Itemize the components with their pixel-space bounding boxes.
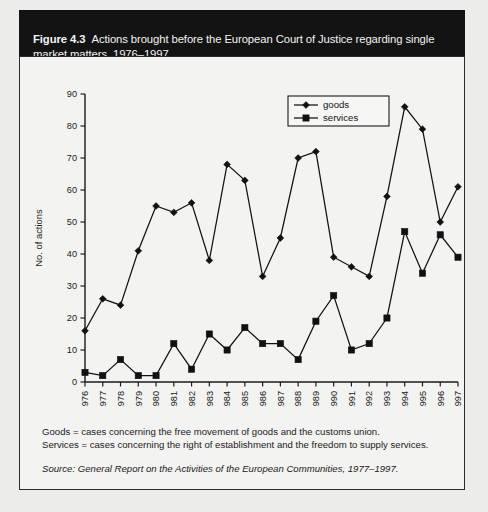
data-point-services (100, 373, 106, 379)
x-tick-label: 1976 (80, 391, 90, 407)
x-tick-label: 1992 (364, 391, 374, 407)
data-point-services (348, 347, 354, 353)
legend-label-services: services (323, 112, 358, 123)
data-point-services (455, 254, 461, 260)
data-point-services (384, 315, 390, 321)
x-tick-label: 1982 (187, 391, 197, 407)
data-point-goods (170, 209, 177, 216)
legend-label-goods: goods (323, 99, 349, 110)
figure-panel: 0102030405060708090No. of actions1976197… (19, 56, 465, 490)
data-point-services (366, 341, 372, 347)
figure-notes: Goods = cases concerning the free moveme… (42, 425, 442, 475)
chart-area: 0102030405060708090No. of actions1976197… (20, 57, 466, 407)
y-tick-label: 40 (67, 249, 77, 259)
x-tick-label: 1978 (116, 391, 126, 407)
data-point-goods (313, 148, 320, 155)
data-point-services (419, 270, 425, 276)
y-tick-label: 20 (67, 313, 77, 323)
y-tick-label: 50 (67, 217, 77, 227)
series-goods (82, 103, 462, 334)
data-point-goods (206, 257, 213, 264)
x-tick-label: 1980 (151, 391, 161, 407)
data-point-goods (135, 247, 142, 254)
y-tick-label: 60 (67, 185, 77, 195)
data-point-goods (99, 295, 106, 302)
x-tick-label: 1994 (400, 391, 410, 407)
y-tick-label: 90 (67, 89, 77, 99)
data-point-goods (82, 327, 89, 334)
x-tick-label: 1984 (222, 391, 232, 407)
source-title: General Report on the Activities of the … (78, 463, 343, 474)
data-point-services (82, 369, 88, 375)
data-point-services (331, 293, 337, 299)
figure-root: Figure 4.3 Actions brought before the Eu… (0, 0, 488, 512)
data-point-goods (153, 203, 160, 210)
x-tick-label: 1987 (276, 391, 286, 407)
data-point-goods (117, 302, 124, 309)
figure-caption-bar: Figure 4.3 Actions brought before the Eu… (19, 10, 465, 56)
data-point-services (188, 366, 194, 372)
x-tick-label: 1979 (134, 391, 144, 407)
data-point-goods (330, 254, 337, 261)
source-label: Source: (42, 463, 75, 474)
x-tick-label: 1986 (258, 391, 268, 407)
data-point-goods (277, 235, 284, 242)
data-point-goods (384, 193, 391, 200)
line-chart: 0102030405060708090No. of actions1976197… (20, 57, 466, 407)
data-point-services (313, 318, 319, 324)
data-point-services (224, 347, 230, 353)
data-point-services (117, 357, 123, 363)
y-tick-label: 0 (72, 377, 77, 387)
data-point-goods (259, 273, 266, 280)
data-point-services (260, 341, 266, 347)
x-tick-label: 1996 (436, 391, 446, 407)
data-point-goods (348, 263, 355, 270)
data-point-goods (188, 199, 195, 206)
data-point-goods (366, 273, 373, 280)
data-point-goods (455, 183, 462, 190)
data-point-services (295, 357, 301, 363)
x-tick-label: 1995 (418, 391, 428, 407)
y-tick-label: 80 (67, 121, 77, 131)
x-tick-label: 1988 (293, 391, 303, 407)
y-tick-label: 30 (67, 281, 77, 291)
x-tick-label: 1983 (205, 391, 215, 407)
x-tick-label: 1993 (382, 391, 392, 407)
x-tick-label: 1977 (98, 391, 108, 407)
note-services: Services = cases concerning the right of… (42, 438, 442, 451)
y-tick-label: 10 (67, 345, 77, 355)
data-point-goods (437, 219, 444, 226)
note-goods: Goods = cases concerning the free moveme… (42, 425, 442, 438)
y-tick-label: 70 (67, 153, 77, 163)
x-tick-label: 1990 (329, 391, 339, 407)
figure-number: Figure 4.3 (33, 33, 85, 45)
legend-marker-services (303, 115, 309, 121)
data-point-services (135, 373, 141, 379)
chart-legend: goodsservices (288, 96, 389, 126)
x-tick-label: 1991 (347, 391, 357, 407)
x-tick-label: 1989 (311, 391, 321, 407)
y-axis-title: No. of actions (33, 209, 44, 267)
x-tick-label: 1985 (240, 391, 250, 407)
data-point-services (242, 325, 248, 331)
data-point-services (437, 232, 443, 238)
data-point-services (277, 341, 283, 347)
data-point-services (153, 373, 159, 379)
data-point-services (402, 229, 408, 235)
x-tick-label: 1981 (169, 391, 179, 407)
data-point-services (171, 341, 177, 347)
source-years: , 1977–1997. (342, 463, 398, 474)
data-point-services (206, 331, 212, 337)
source-note: Source: General Report on the Activities… (42, 462, 442, 475)
data-point-goods (295, 155, 302, 162)
x-tick-label: 1997 (453, 391, 463, 407)
